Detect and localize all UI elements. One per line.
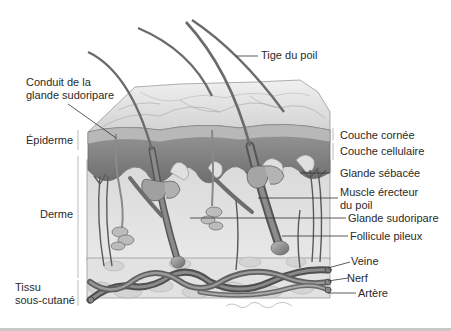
label-couche-cornee: Couche cornée [340,129,415,142]
label-glande-sebacee: Glande sébacée [340,167,420,180]
label-muscle-line2: du poil [340,199,418,212]
label-derme: Derme [40,208,73,221]
label-conduit-line1: Conduit de la [26,76,114,89]
label-tissu-sous-cutane: Tissu sous-cutané [15,281,75,307]
label-artere: Artère [358,287,388,300]
label-follicule-pileux: Follicule pileux [350,230,422,243]
label-conduit-line2: glande sudoripare [26,89,114,102]
label-nerf: Nerf [347,272,368,285]
label-couche-cellulaire: Couche cellulaire [340,145,424,158]
artist-signature [226,302,292,307]
label-epiderme: Épiderme [26,134,73,147]
label-tige-du-poil: Tige du poil [261,49,317,62]
label-tissu-line1: Tissu [15,281,75,294]
label-muscle-line1: Muscle érecteur [340,186,418,199]
label-tissu-line2: sous-cutané [15,294,75,307]
label-conduit-glande-sudoripare: Conduit de la glande sudoripare [26,76,114,102]
label-muscle-erecteur: Muscle érecteur du poil [340,186,418,212]
label-veine: Veine [351,255,379,268]
skin-diagram: Tige du poil Conduit de la glande sudori… [0,0,451,331]
label-glande-sudoripare: Glande sudoripare [348,212,439,225]
